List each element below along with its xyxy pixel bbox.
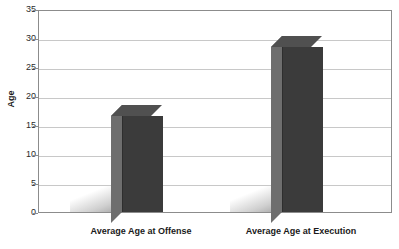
x-axis-label: Average Age at Execution	[211, 226, 391, 236]
plot-area	[38, 10, 392, 213]
bar-top-face	[271, 36, 322, 47]
bar-side-face	[271, 36, 282, 223]
y-tick-label: 35	[8, 5, 36, 14]
y-tick-label: 5	[8, 179, 36, 188]
y-tick-label: 10	[8, 150, 36, 159]
y-tick-mark	[33, 213, 38, 214]
bar-front-face	[282, 47, 323, 212]
bar	[39, 9, 393, 212]
y-tick-label: 30	[8, 34, 36, 43]
y-tick-label: 0	[8, 208, 36, 217]
y-tick-label: 20	[8, 92, 36, 101]
bar-chart: Age 05101520253035 Average Age at Offens…	[0, 0, 399, 249]
y-tick-label: 15	[8, 121, 36, 130]
y-tick-label: 25	[8, 63, 36, 72]
x-axis-label: Average Age at Offense	[51, 226, 231, 236]
